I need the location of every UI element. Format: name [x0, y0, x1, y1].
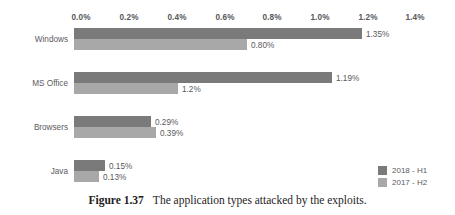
legend-swatch-icon: [378, 178, 387, 187]
bar-windows-2018h1[interactable]: [74, 28, 362, 39]
bar-java-2017h2[interactable]: [74, 171, 99, 182]
bar-value-java-2018h1: 0.15%: [105, 161, 132, 170]
legend-label: 2018 - H1: [392, 166, 427, 175]
bar-track: 1.35%: [74, 28, 362, 39]
legend-label: 2017 - H2: [392, 178, 427, 187]
legend-item-2017-h2[interactable]: 2017 - H2: [378, 177, 454, 188]
figure-caption-label: Figure 1.37: [88, 194, 143, 206]
bar-ms-office-2017h2[interactable]: [74, 83, 178, 94]
bar-track: 0.39%: [74, 127, 156, 138]
bar-windows-2017h2[interactable]: [74, 39, 247, 50]
bar-group-ms-office: MS Office 1.19% 1.2%: [0, 72, 455, 94]
figure-caption-text: The application types attacked by the ex…: [153, 194, 367, 206]
figure-caption: Figure 1.37The application types attacke…: [0, 194, 455, 206]
bar-track: 0.15%: [74, 160, 105, 171]
bar-value-java-2017h2: 0.13%: [99, 172, 126, 181]
legend-item-2018-h1[interactable]: 2018 - H1: [378, 165, 454, 176]
bar-value-browsers-2018h1: 0.29%: [151, 117, 178, 126]
bar-track: 1.2%: [74, 83, 178, 94]
bar-value-ms-office-2018h1: 1.19%: [332, 73, 359, 82]
figure-container: 0.0% 0.2% 0.4% 0.6% 0.8% 1.0% 1.2% 1.4% …: [0, 0, 455, 215]
bar-java-2018h1[interactable]: [74, 160, 105, 171]
bar-track: 0.13%: [74, 171, 99, 182]
bar-value-windows-2017h2: 0.80%: [247, 40, 274, 49]
bar-group-windows: Windows 1.35% 0.80%: [0, 28, 455, 50]
bar-value-ms-office-2017h2: 1.2%: [178, 84, 201, 93]
bar-track: 0.80%: [74, 39, 247, 50]
chart-legend: 2018 - H1 2017 - H2: [378, 165, 454, 189]
bar-browsers-2018h1[interactable]: [74, 116, 151, 127]
bar-ms-office-2018h1[interactable]: [74, 72, 332, 83]
bar-track: 1.19%: [74, 72, 332, 83]
category-label-ms-office: MS Office: [32, 79, 68, 88]
category-label-java: Java: [51, 167, 68, 176]
plot-area: Windows 1.35% 0.80% MS Office 1.19% 1.2%: [0, 0, 455, 190]
bar-value-browsers-2017h2: 0.39%: [156, 128, 183, 137]
bar-value-windows-2018h1: 1.35%: [362, 29, 389, 38]
category-label-windows: Windows: [35, 35, 68, 44]
bar-group-browsers: Browsers 0.29% 0.39%: [0, 116, 455, 138]
bar-track: 0.29%: [74, 116, 151, 127]
legend-swatch-icon: [378, 166, 387, 175]
bar-browsers-2017h2[interactable]: [74, 127, 156, 138]
category-label-browsers: Browsers: [34, 123, 68, 132]
